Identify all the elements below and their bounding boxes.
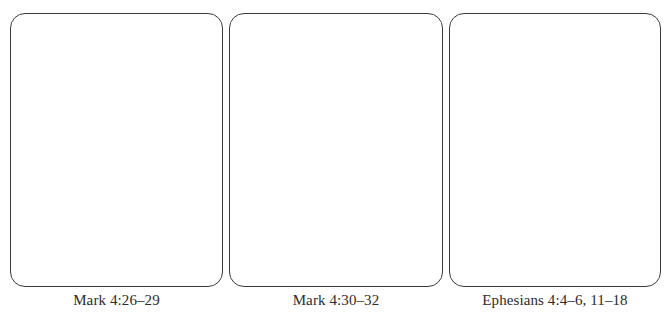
drawing-box-1	[10, 13, 223, 287]
caption-ephesians-4: Ephesians 4:4–6, 11–18	[449, 291, 661, 309]
drawing-box-3	[449, 13, 661, 287]
caption-mark-4-30-32: Mark 4:30–32	[229, 291, 443, 309]
drawing-box-2	[229, 13, 443, 287]
caption-mark-4-26-29: Mark 4:26–29	[10, 291, 223, 309]
